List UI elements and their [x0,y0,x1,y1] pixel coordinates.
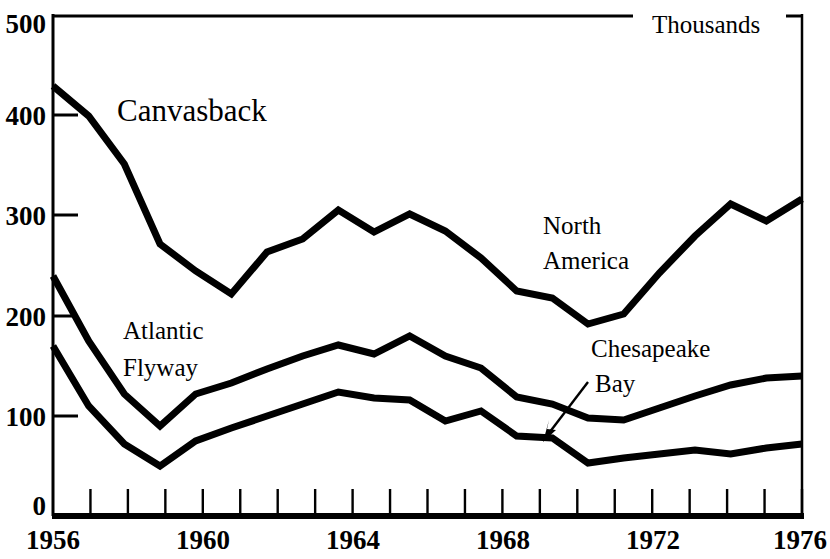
y-label-500: 500 [6,9,47,39]
annotation-leader-line [546,382,588,437]
y-axis-labels: 500 400 300 200 100 0 [6,9,47,521]
annotation-america: America [543,247,629,274]
annotation-flyway: Flyway [123,354,199,381]
x-label-1976: 1976 [773,525,827,555]
data-series-group [53,86,802,466]
canvasback-line-chart: 500 400 300 200 100 0 1956 1960 1964 196… [0,0,830,559]
x-label-1972: 1972 [626,525,680,555]
annotation-bay: Bay [595,370,636,397]
y-label-0: 0 [33,491,47,521]
y-label-100: 100 [6,402,47,432]
x-axis-labels: 1956 1960 1964 1968 1972 1976 [26,525,827,555]
chart-frame [52,14,804,516]
x-label-1964: 1964 [326,525,380,555]
annotation-atlantic-flyway: Atlantic Flyway [123,317,204,381]
annotation-atlantic: Atlantic [123,317,204,344]
page-title: Canvasback [117,93,267,128]
x-label-1956: 1956 [26,525,80,555]
annotation-north-america: North America [543,212,629,274]
y-label-400: 400 [6,101,47,131]
annotation-north: North [543,212,602,239]
y-label-200: 200 [6,302,47,332]
x-label-1968: 1968 [476,525,530,555]
chart-page: 500 400 300 200 100 0 1956 1960 1964 196… [0,0,830,559]
unit-label-thousands: Thousands [652,11,760,38]
annotation-chesapeake: Chesapeake [591,335,710,362]
annotation-chesapeake-bay: Chesapeake Bay [543,335,710,442]
y-label-300: 300 [6,201,47,231]
x-label-1960: 1960 [176,525,230,555]
x-axis-ticks [90,489,802,516]
